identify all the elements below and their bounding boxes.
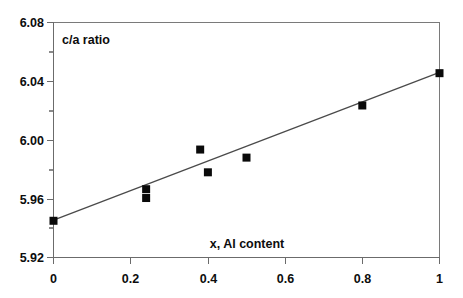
- x-tick-label-1: 1: [436, 272, 443, 286]
- data-point-marker: [204, 168, 212, 176]
- x-axis-ticks: [54, 258, 440, 264]
- scatter-plot-canvas: 6.08 6.04 6.00 5.96 5.92 0 0.2 0.4 0.6 0…: [0, 0, 463, 298]
- data-point-marker: [358, 101, 366, 109]
- x-tick-label-0: 0: [50, 272, 57, 286]
- data-point-marker: [142, 185, 150, 193]
- x-axis-title: x, Al content: [210, 237, 285, 251]
- x-tick-label-0.2: 0.2: [122, 272, 139, 286]
- data-point-marker: [50, 217, 58, 225]
- data-point-marker: [243, 154, 251, 162]
- y-axis-title: c/a ratio: [62, 33, 110, 47]
- data-point-marker: [142, 194, 150, 202]
- x-tick-label-0.4: 0.4: [200, 272, 217, 286]
- y-tick-label-5.96: 5.96: [20, 193, 44, 207]
- data-point-marker: [436, 69, 444, 77]
- y-tick-label-6.08: 6.08: [20, 16, 44, 30]
- plot-area-background: [53, 22, 440, 258]
- x-tick-label-0.6: 0.6: [277, 272, 294, 286]
- y-tick-label-5.92: 5.92: [20, 251, 44, 265]
- x-tick-label-0.8: 0.8: [354, 272, 371, 286]
- data-point-marker: [196, 146, 204, 154]
- y-tick-label-6.04: 6.04: [20, 75, 44, 89]
- chart-figure: 6.08 6.04 6.00 5.96 5.92 0 0.2 0.4 0.6 0…: [0, 0, 463, 298]
- y-tick-label-6.00: 6.00: [20, 134, 44, 148]
